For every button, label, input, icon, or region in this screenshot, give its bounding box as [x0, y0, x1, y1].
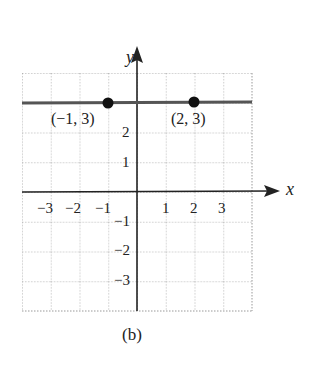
x-tick: −2	[65, 201, 81, 216]
line-y-equals-3	[22, 102, 252, 103]
y-tick: −2	[114, 243, 130, 258]
point-b	[189, 97, 200, 108]
point-a	[103, 98, 114, 109]
y-tick: 1	[122, 155, 130, 170]
x-tick: 3	[218, 201, 226, 216]
graph	[0, 0, 310, 366]
y-tick: −3	[114, 273, 130, 288]
y-tick: −1	[114, 214, 130, 229]
x-tick: 1	[162, 201, 170, 216]
y-tick: 2	[122, 125, 130, 140]
x-tick: 2	[190, 201, 198, 216]
caption: (b)	[122, 326, 142, 343]
point-b-label: (2, 3)	[171, 111, 206, 127]
x-axis	[22, 191, 272, 192]
x-tick: −1	[95, 201, 111, 216]
point-a-label: (−1, 3)	[51, 111, 95, 127]
x-axis-label: x	[286, 180, 294, 198]
y-axis-label: y	[126, 48, 134, 66]
x-tick: −3	[37, 201, 53, 216]
